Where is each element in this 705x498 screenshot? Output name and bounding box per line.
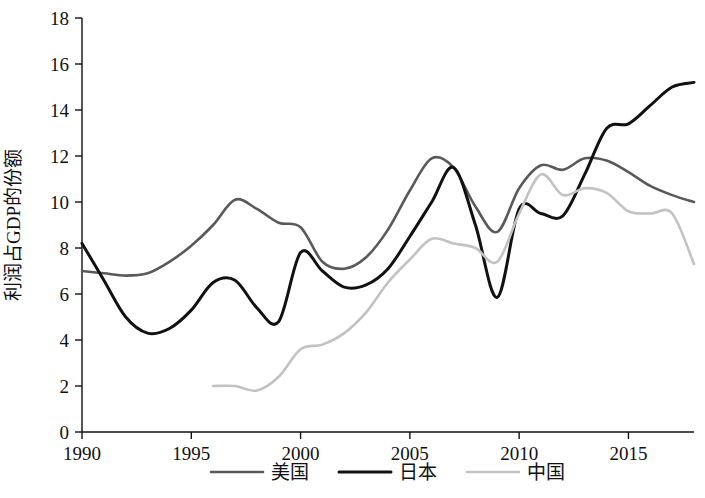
x-tick-label: 2015 xyxy=(609,443,647,464)
y-tick-label: 0 xyxy=(60,422,70,443)
x-tick-label: 2000 xyxy=(282,443,320,464)
y-tick-label: 18 xyxy=(50,8,69,29)
x-axis: 199019952000200520102015 xyxy=(63,432,694,464)
y-axis-title: 利润占GDP的份额 xyxy=(3,149,24,301)
x-tick-label: 2010 xyxy=(500,443,538,464)
legend-label-中国: 中国 xyxy=(527,462,565,483)
series-line-中国 xyxy=(213,174,694,391)
line-chart-canvas: 024681012141618 199019952000200520102015… xyxy=(0,0,705,498)
series-line-美国 xyxy=(82,157,694,276)
y-tick-label: 6 xyxy=(60,284,70,305)
y-tick-label: 8 xyxy=(60,238,70,259)
y-tick-label: 2 xyxy=(60,376,70,397)
chart-figure: 024681012141618 199019952000200520102015… xyxy=(0,0,705,498)
series-line-日本 xyxy=(82,82,694,333)
y-axis-title-text: 利润占GDP的份额 xyxy=(3,149,24,301)
chart-legend: 美国日本中国 xyxy=(211,462,565,483)
legend-label-美国: 美国 xyxy=(271,462,309,483)
y-tick-label: 16 xyxy=(50,54,69,75)
x-tick-label: 2005 xyxy=(391,443,429,464)
series-layer xyxy=(82,82,694,390)
y-axis: 024681012141618 xyxy=(50,8,82,443)
y-tick-label: 14 xyxy=(50,100,70,121)
y-tick-label: 12 xyxy=(50,146,69,167)
y-tick-label: 4 xyxy=(60,330,70,351)
legend-label-日本: 日本 xyxy=(399,462,437,483)
x-tick-label: 1995 xyxy=(172,443,210,464)
x-tick-label: 1990 xyxy=(63,443,101,464)
y-tick-label: 10 xyxy=(50,192,69,213)
